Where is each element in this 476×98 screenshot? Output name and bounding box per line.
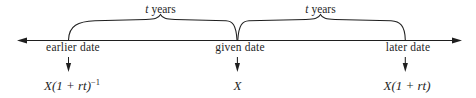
down-arrow-given (235, 57, 240, 72)
brace-left-inner-arm (161, 14, 238, 40)
formula-earlier: X(1 + rt)−1 (44, 78, 100, 92)
interest-timeline-diagram: t years t years earlier date given date … (0, 0, 476, 98)
formula-given: X (233, 78, 241, 92)
brace-left-outer-arm (69, 14, 161, 40)
brace-left-label: t years (145, 4, 175, 16)
axis-left-arrowhead (17, 38, 27, 44)
down-arrow-later (403, 57, 408, 72)
formula-earlier-exponent: −1 (91, 77, 100, 87)
brace-right-outer-arm (238, 14, 321, 40)
date-label-earlier: earlier date (46, 42, 100, 54)
brace-left-label-unit: years (149, 3, 176, 15)
down-arrow-given-head (235, 63, 240, 72)
brace-right-label-unit: years (309, 3, 336, 15)
down-arrow-earlier (66, 57, 71, 72)
date-label-given: given date (215, 42, 265, 54)
formula-given-base: X (233, 78, 241, 93)
brace-right-label: t years (305, 4, 335, 16)
brace-right (238, 14, 405, 40)
down-arrow-earlier-head (66, 63, 71, 72)
brace-left (69, 14, 238, 40)
brace-right-inner-arm (321, 14, 406, 40)
formula-earlier-base: X(1 + rt) (44, 78, 91, 93)
axis-right-arrowhead (452, 38, 462, 44)
date-label-later: later date (386, 42, 430, 54)
formula-later: X(1 + rt) (383, 78, 430, 92)
formula-later-base: X(1 + rt) (383, 78, 430, 93)
down-arrow-later-head (403, 63, 408, 72)
